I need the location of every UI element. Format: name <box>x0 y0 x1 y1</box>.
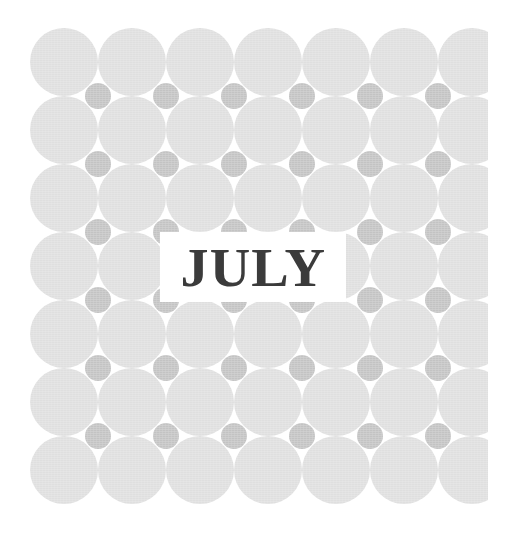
small-dot <box>153 151 179 177</box>
small-dot <box>153 423 179 449</box>
small-dot <box>85 287 111 313</box>
small-dot <box>425 151 451 177</box>
small-dot <box>289 83 315 109</box>
small-dot <box>357 355 383 381</box>
small-dot <box>221 151 247 177</box>
month-title-plate: JULY <box>160 232 346 302</box>
small-dot <box>153 355 179 381</box>
small-dot <box>153 83 179 109</box>
small-dot <box>221 83 247 109</box>
page-title: JULY <box>180 240 325 295</box>
small-dot <box>357 287 383 313</box>
small-dot <box>221 355 247 381</box>
small-dot <box>425 423 451 449</box>
small-dot <box>425 355 451 381</box>
small-dot <box>85 219 111 245</box>
small-dot <box>85 83 111 109</box>
small-dot <box>289 423 315 449</box>
month-cover-page: JULY <box>0 0 514 534</box>
small-dot <box>85 355 111 381</box>
small-dot <box>357 151 383 177</box>
small-dot <box>85 423 111 449</box>
small-dot <box>221 423 247 449</box>
small-dot <box>425 219 451 245</box>
small-dot <box>357 83 383 109</box>
small-dot <box>425 287 451 313</box>
small-dot <box>289 151 315 177</box>
small-dot <box>85 151 111 177</box>
small-dot <box>289 355 315 381</box>
small-dot <box>425 83 451 109</box>
small-dot <box>357 219 383 245</box>
small-dot <box>357 423 383 449</box>
